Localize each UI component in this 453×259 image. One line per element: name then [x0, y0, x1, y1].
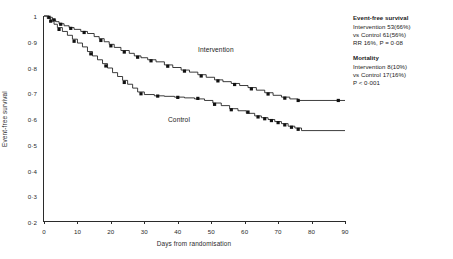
censor-mark-control — [270, 119, 273, 122]
x-tick-label-10: 10 — [74, 228, 81, 235]
stats-event-free-rr: RR 16%, P = 0·08 — [353, 39, 451, 47]
y-axis-title: Event-free survival — [1, 91, 8, 147]
statistics-legend: Event-free survival Intervention 53(66%)… — [353, 14, 451, 88]
series-label-control: Control — [168, 116, 190, 123]
x-tick-10 — [77, 221, 78, 224]
x-tick-label-40: 40 — [174, 228, 181, 235]
x-tick-80 — [312, 221, 313, 224]
x-tick-60 — [245, 221, 246, 224]
censor-mark-intervention — [99, 39, 102, 42]
stats-mortality-p: P < 0·001 — [353, 79, 451, 87]
censor-mark-control — [283, 123, 286, 126]
censor-mark-control — [89, 52, 92, 55]
stats-block-mortality: Mortality Intervention 8(10%) vs Control… — [353, 54, 451, 87]
y-tick-label-5: 0·7 — [13, 90, 37, 97]
plot-area — [44, 16, 345, 222]
censor-mark-intervention — [266, 92, 269, 95]
censor-mark-control — [139, 92, 142, 95]
censor-mark-control — [73, 40, 76, 43]
kaplan-meier-figure: 01020304050607080900·20·30·40·50·60·70·8… — [0, 0, 453, 259]
x-tick-label-90: 90 — [341, 228, 348, 235]
y-tick-label-2: 0·4 — [13, 167, 37, 174]
x-tick-40 — [178, 221, 179, 224]
censor-mark-intervention — [233, 83, 236, 86]
y-tick-label-1: 0·3 — [13, 193, 37, 200]
x-tick-20 — [111, 221, 112, 224]
x-tick-50 — [211, 221, 212, 224]
censor-mark-control — [256, 115, 259, 118]
x-tick-label-70: 70 — [275, 228, 282, 235]
censor-mark-intervention — [136, 56, 139, 59]
stats-mortality-control: vs Control 17(16%) — [353, 71, 451, 79]
censor-mark-intervention — [69, 27, 72, 30]
y-tick-label-3: 0·5 — [13, 141, 37, 148]
stats-event-free-control: vs Control 61(56%) — [353, 31, 451, 39]
x-tick-30 — [144, 221, 145, 224]
censor-mark-control — [49, 20, 52, 23]
x-tick-0 — [44, 221, 45, 224]
x-tick-70 — [278, 221, 279, 224]
censor-mark-intervention — [250, 87, 253, 90]
censor-mark-control — [156, 94, 159, 97]
y-tick-label-6: 0·8 — [13, 64, 37, 71]
censor-mark-intervention — [297, 99, 300, 102]
censor-mark-control — [246, 110, 249, 113]
stats-heading-event-free: Event-free survival — [353, 14, 451, 22]
x-axis-line — [44, 221, 345, 222]
stats-block-event-free: Event-free survival Intervention 53(66%)… — [353, 14, 451, 47]
censor-mark-intervention — [337, 99, 340, 102]
series-label-intervention: Intervention — [198, 46, 234, 53]
censor-mark-intervention — [183, 70, 186, 73]
x-tick-label-30: 30 — [141, 228, 148, 235]
x-tick-label-60: 60 — [241, 228, 248, 235]
censor-mark-control — [176, 96, 179, 99]
censor-mark-intervention — [149, 59, 152, 62]
stats-heading-mortality: Mortality — [353, 54, 451, 62]
censor-mark-intervention — [123, 50, 126, 53]
x-tick-90 — [345, 221, 346, 224]
censor-mark-intervention — [59, 23, 62, 26]
km-curve-intervention — [44, 16, 345, 100]
y-tick-label-7: 0·9 — [13, 38, 37, 45]
y-tick-label-0: 0·2 — [13, 219, 37, 226]
censor-mark-control — [277, 121, 280, 124]
y-tick-label-8: 1 — [13, 13, 37, 20]
x-tick-label-50: 50 — [208, 228, 215, 235]
censor-mark-control — [213, 103, 216, 106]
censor-mark-intervention — [166, 65, 169, 68]
censor-mark-control — [290, 126, 293, 129]
x-axis-title: Days from randomisation — [157, 240, 231, 247]
x-tick-label-20: 20 — [107, 228, 114, 235]
censor-mark-intervention — [283, 97, 286, 100]
censor-mark-intervention — [83, 31, 86, 34]
y-axis-line — [43, 16, 44, 222]
km-curves — [44, 16, 345, 222]
censor-mark-intervention — [109, 44, 112, 47]
censor-mark-control — [104, 64, 107, 67]
censor-mark-control — [263, 117, 266, 120]
stats-event-free-intervention: Intervention 53(66%) — [353, 23, 451, 31]
y-tick-label-4: 0·6 — [13, 116, 37, 123]
censor-mark-control — [123, 81, 126, 84]
x-tick-label-0: 0 — [42, 228, 46, 235]
censor-mark-control — [57, 28, 60, 31]
censor-mark-control — [230, 108, 233, 111]
censor-mark-intervention — [200, 74, 203, 77]
stats-mortality-intervention: Intervention 8(10%) — [353, 63, 451, 71]
censor-mark-intervention — [216, 79, 219, 82]
x-tick-label-80: 80 — [308, 228, 315, 235]
censor-mark-control — [196, 97, 199, 100]
censor-mark-control — [297, 128, 300, 131]
